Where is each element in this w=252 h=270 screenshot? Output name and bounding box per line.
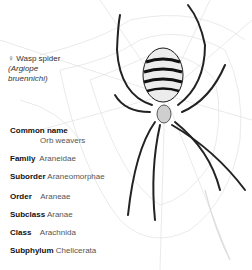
taxonomy-key: Suborder	[10, 172, 46, 181]
taxonomy-key: Subphylum	[10, 246, 54, 255]
species-caption: ♀ Wasp spider (Argiope bruennichi)	[8, 54, 60, 84]
taxonomy-value: Chelicerata	[56, 246, 96, 255]
taxonomy-key: Subclass	[10, 210, 45, 219]
taxonomy-row-subphylum: Subphylum Chelicerata	[10, 246, 96, 255]
taxonomy-row-order: Order Araneae	[10, 192, 71, 201]
taxonomy-key: Family	[10, 154, 35, 163]
taxonomy-row-subclass: Subclass Aranae	[10, 210, 73, 219]
taxonomy-value: Aranae	[47, 210, 73, 219]
taxonomy-key: Class	[10, 228, 31, 237]
taxonomy-key: Order	[10, 192, 32, 201]
taxonomy-row-common-name-value: Orb weavers	[40, 136, 85, 145]
taxonomy-value: Araneidae	[39, 154, 75, 163]
taxonomy-row-family: Family Araneidae	[10, 154, 76, 163]
female-symbol: ♀	[8, 54, 14, 63]
taxonomy-row-suborder: Suborder Araneomorphae	[10, 172, 105, 181]
taxonomy-value: Araneae	[40, 192, 70, 201]
taxonomy-value: Arachnida	[40, 228, 76, 237]
taxonomy-value: Araneomorphae	[47, 172, 104, 181]
scientific-name-line1: (Argiope	[8, 64, 60, 74]
taxonomy-value: Orb weavers	[40, 136, 85, 145]
taxonomy-row-common-name: Common name	[10, 126, 68, 135]
scientific-name-line2: bruennichi)	[8, 74, 60, 84]
taxonomy-key: Common name	[10, 126, 68, 135]
common-species-name: Wasp spider	[16, 54, 60, 63]
taxonomy-row-class: Class Arachnida	[10, 228, 76, 237]
